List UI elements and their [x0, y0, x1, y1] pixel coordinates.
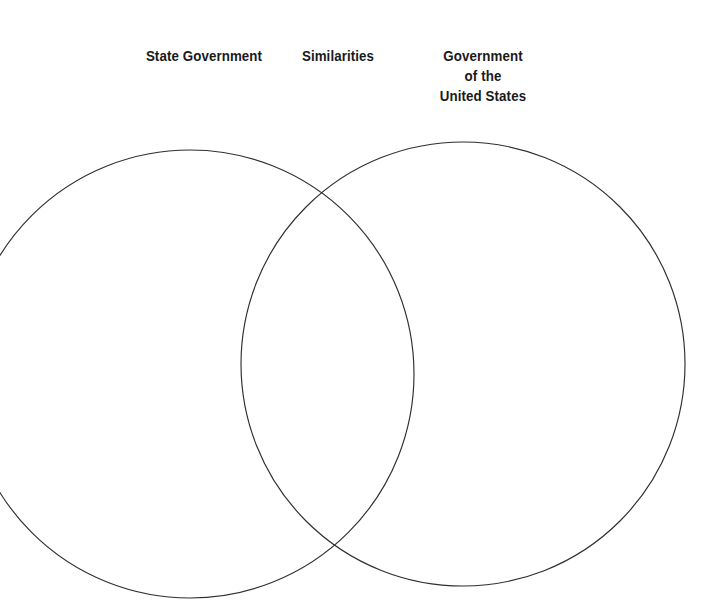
united-states-government-circle[interactable] [241, 142, 685, 586]
state-government-circle[interactable] [0, 150, 414, 598]
label-state-government: State Government [123, 46, 285, 66]
worksheet-page: State Government Similarities Government… [0, 0, 721, 613]
label-government-of-the-united-states: Government of the United States [427, 46, 539, 106]
label-similarities: Similarities [289, 46, 387, 66]
venn-diagram [0, 0, 721, 613]
